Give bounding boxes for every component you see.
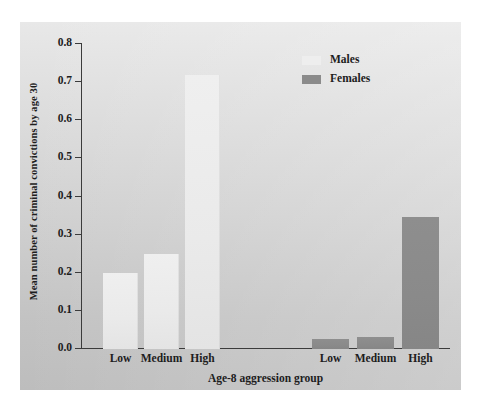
bar-males-medium <box>144 254 179 349</box>
legend-item-females: Females <box>302 71 422 87</box>
chart-figure: 0.00.10.20.30.40.50.60.70.8 Mean number … <box>0 0 481 406</box>
bar-males-high <box>185 75 220 350</box>
legend-swatch-males-icon <box>302 56 321 65</box>
x-axis-title: Age-8 aggression group <box>81 372 450 384</box>
bar-females-high <box>402 217 439 349</box>
bar-females-medium <box>357 337 394 349</box>
legend-item-males: Males <box>302 52 422 68</box>
x-axis-tick-label: High <box>173 352 232 364</box>
chart-legend: Males Females <box>302 52 422 90</box>
bar-females-low <box>312 339 349 349</box>
x-axis-tick-label: High <box>390 352 451 364</box>
legend-label-females: Females <box>330 73 370 85</box>
legend-label-males: Males <box>330 54 359 66</box>
bar-males-low <box>103 273 138 349</box>
legend-swatch-females-icon <box>302 75 321 84</box>
